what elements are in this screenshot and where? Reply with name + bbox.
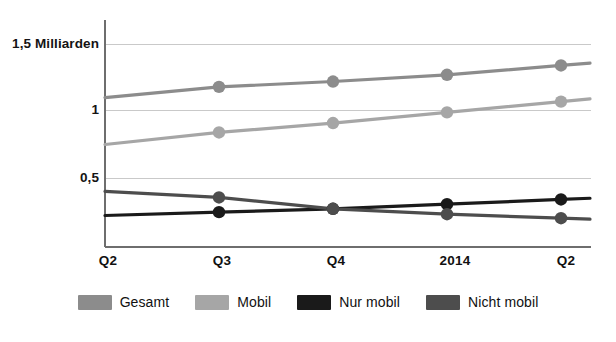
series-line-nicht-mobil xyxy=(105,191,590,219)
data-point-nicht-mobil-q2 xyxy=(555,212,567,224)
legend-swatch-gesamt xyxy=(78,295,112,310)
legend-swatch-nur-mobil xyxy=(297,295,331,310)
legend-item-nicht-mobil[interactable]: Nicht mobil xyxy=(426,294,538,310)
legend-label-nur-mobil: Nur mobil xyxy=(339,294,400,310)
x-tick-q3: Q3 xyxy=(213,253,231,268)
data-point-gesamt-q2 xyxy=(555,59,567,71)
data-point-nicht-mobil-q3 xyxy=(213,191,225,203)
legend-swatch-nicht-mobil xyxy=(426,295,460,310)
series-line-mobil xyxy=(105,99,590,145)
x-tick-2014: 2014 xyxy=(440,253,471,268)
x-tick-q2-first: Q2 xyxy=(99,253,117,268)
data-point-nur-mobil-q2 xyxy=(555,193,567,205)
data-point-mobil-q3 xyxy=(213,126,225,138)
legend-label-gesamt: Gesamt xyxy=(120,294,170,310)
data-point-nicht-mobil-q4 xyxy=(327,203,339,215)
x-tick-q2-last: Q2 xyxy=(557,253,575,268)
legend-item-nur-mobil[interactable]: Nur mobil xyxy=(297,294,400,310)
series-line-nur-mobil xyxy=(105,198,590,215)
data-point-gesamt-q3 xyxy=(213,81,225,93)
series-layer xyxy=(0,0,616,342)
legend-item-mobil[interactable]: Mobil xyxy=(195,294,271,310)
series-line-gesamt xyxy=(105,63,590,98)
data-point-mobil-q2 xyxy=(555,95,567,107)
legend-item-gesamt[interactable]: Gesamt xyxy=(78,294,170,310)
data-point-nicht-mobil-2014 xyxy=(441,208,453,220)
line-chart: 1,5 Milliarden 1 0,5 Q2 Q3 Q4 2014 Q2 Ge… xyxy=(0,0,616,342)
legend-swatch-mobil xyxy=(195,295,229,310)
legend-label-mobil: Mobil xyxy=(237,294,271,310)
data-point-gesamt-2014 xyxy=(441,69,453,81)
legend-label-nicht-mobil: Nicht mobil xyxy=(468,294,538,310)
x-tick-q4: Q4 xyxy=(327,253,345,268)
chart-legend: Gesamt Mobil Nur mobil Nicht mobil xyxy=(0,294,616,310)
data-point-nur-mobil-q3 xyxy=(213,206,225,218)
data-point-mobil-q4 xyxy=(327,117,339,129)
data-point-gesamt-q4 xyxy=(327,75,339,87)
data-point-mobil-2014 xyxy=(441,106,453,118)
